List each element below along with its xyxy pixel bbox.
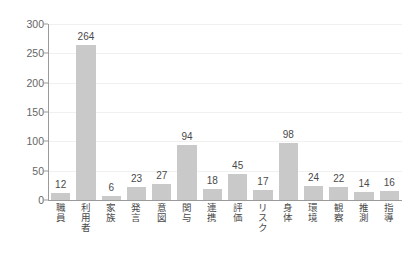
y-axis-tick-label: 200 — [4, 77, 44, 88]
bar-value-label: 18 — [200, 176, 225, 186]
bar-chart: 050100150200250300 122646232794184517982… — [0, 0, 418, 253]
bar[interactable] — [152, 184, 171, 200]
bar-value-label: 45 — [225, 161, 250, 171]
y-axis-tick-label: 250 — [4, 48, 44, 59]
bar-group[interactable]: 18 — [200, 24, 225, 200]
x-axis-category-label: 意図 — [149, 203, 174, 223]
label-char: 体 — [276, 213, 301, 223]
label-char: 者 — [73, 223, 98, 233]
bar[interactable] — [380, 191, 399, 200]
bar-value-label: 17 — [250, 177, 275, 187]
bar[interactable] — [279, 143, 298, 200]
x-axis-category-label: 利用者 — [73, 203, 98, 233]
label-char: 導 — [377, 213, 402, 223]
y-axis-tick-label: 150 — [4, 107, 44, 118]
bar-group[interactable]: 27 — [149, 24, 174, 200]
bar-group[interactable]: 14 — [351, 24, 376, 200]
label-char: 境 — [301, 213, 326, 223]
bar[interactable] — [127, 187, 146, 200]
y-axis-tick-label: 50 — [4, 165, 44, 176]
label-char: 携 — [200, 213, 225, 223]
bar[interactable] — [76, 45, 95, 200]
bar[interactable] — [228, 174, 247, 200]
bar-group[interactable]: 16 — [377, 24, 402, 200]
x-axis-category-label: 指導 — [377, 203, 402, 223]
bar-group[interactable]: 264 — [73, 24, 98, 200]
y-axis-tick-label: 100 — [4, 136, 44, 147]
bar-group[interactable]: 45 — [225, 24, 250, 200]
x-axis-category-label: 身体 — [276, 203, 301, 223]
bar[interactable] — [329, 187, 348, 200]
bar-value-label: 94 — [174, 132, 199, 142]
bar-value-label: 264 — [73, 32, 98, 42]
bar-group[interactable]: 6 — [99, 24, 124, 200]
bar[interactable] — [354, 192, 373, 200]
bar-value-label: 14 — [351, 179, 376, 189]
bar[interactable] — [177, 145, 196, 200]
bar-group[interactable]: 17 — [250, 24, 275, 200]
bar-group[interactable]: 24 — [301, 24, 326, 200]
label-char: 族 — [99, 213, 124, 223]
label-char: ク — [250, 223, 275, 233]
label-char: 価 — [225, 213, 250, 223]
x-axis-category-label: 発言 — [124, 203, 149, 223]
bar-value-label: 16 — [377, 178, 402, 188]
bars-layer: 1226462327941845179824221416 — [48, 24, 402, 200]
label-char: 測 — [351, 213, 376, 223]
bar-value-label: 27 — [149, 171, 174, 181]
label-char: 察 — [326, 213, 351, 223]
y-axis-tick-label: 0 — [4, 195, 44, 206]
bar[interactable] — [51, 193, 70, 200]
bar-value-label: 22 — [326, 174, 351, 184]
x-axis-category-label: 職員 — [48, 203, 73, 223]
bar[interactable] — [253, 190, 272, 200]
x-axis-category-label: 推測 — [351, 203, 376, 223]
x-axis-labels: 職員利用者家族発言意図関与連携評価リスク身体環境観察推測指導 — [48, 203, 402, 253]
bar-group[interactable]: 23 — [124, 24, 149, 200]
x-axis-category-label: リスク — [250, 203, 275, 233]
x-axis-category-label: 連携 — [200, 203, 225, 223]
bar-value-label: 23 — [124, 174, 149, 184]
label-char: 図 — [149, 213, 174, 223]
bar-group[interactable]: 94 — [174, 24, 199, 200]
bar-group[interactable]: 98 — [276, 24, 301, 200]
x-axis-category-label: 家族 — [99, 203, 124, 223]
bar[interactable] — [203, 189, 222, 200]
bar-group[interactable]: 22 — [326, 24, 351, 200]
bar-value-label: 12 — [48, 180, 73, 190]
x-axis-category-label: 評価 — [225, 203, 250, 223]
label-char: 言 — [124, 213, 149, 223]
label-char: 与 — [174, 213, 199, 223]
bar[interactable] — [304, 186, 323, 200]
label-char: 員 — [48, 213, 73, 223]
bar-value-label: 98 — [276, 130, 301, 140]
x-axis-category-label: 環境 — [301, 203, 326, 223]
x-axis-category-label: 観察 — [326, 203, 351, 223]
bar-value-label: 6 — [99, 183, 124, 193]
bar-group[interactable]: 12 — [48, 24, 73, 200]
bar[interactable] — [102, 196, 121, 200]
y-axis-tick-label: 300 — [4, 19, 44, 30]
x-axis-category-label: 関与 — [174, 203, 199, 223]
bar-value-label: 24 — [301, 173, 326, 183]
x-axis-line — [48, 200, 402, 201]
